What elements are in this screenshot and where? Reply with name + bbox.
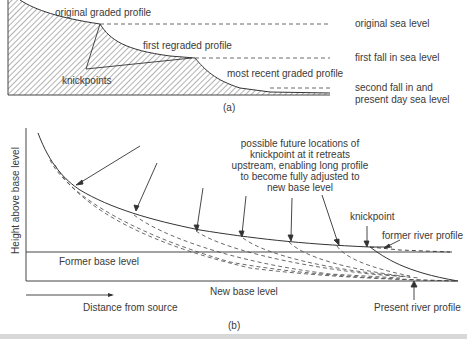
label-knickpoint: knickpoint	[350, 211, 394, 222]
label-original-sea-level: original sea level	[355, 18, 430, 29]
label-original-graded-profile: original graded profile	[55, 7, 151, 18]
bottom-border-bar	[0, 334, 467, 339]
label-former-river-profile: former river profile	[382, 230, 463, 241]
x-axis-label: Distance from source	[83, 302, 177, 313]
label-first-regraded-profile: first regraded profile	[143, 40, 232, 51]
caption-b: (b)	[228, 320, 240, 331]
label-former-base-level: Former base level	[59, 256, 139, 267]
label-knickpoints: knickpoints	[62, 75, 111, 86]
label-second-fall-line2: present day sea level	[355, 94, 450, 105]
label-present-river-profile: Present river profile	[374, 302, 461, 313]
caption-a: (a)	[223, 102, 235, 113]
label-new-base-level: New base level	[210, 286, 278, 297]
label-second-fall-line1: second fall in and	[355, 82, 433, 93]
annotation-future-knickpoints: possible future locations of knickpoint …	[205, 138, 395, 193]
label-most-recent-graded-profile: most recent graded profile	[227, 68, 343, 79]
y-axis-label: Height above base level	[10, 136, 21, 266]
label-first-fall: first fall in sea level	[355, 52, 439, 63]
